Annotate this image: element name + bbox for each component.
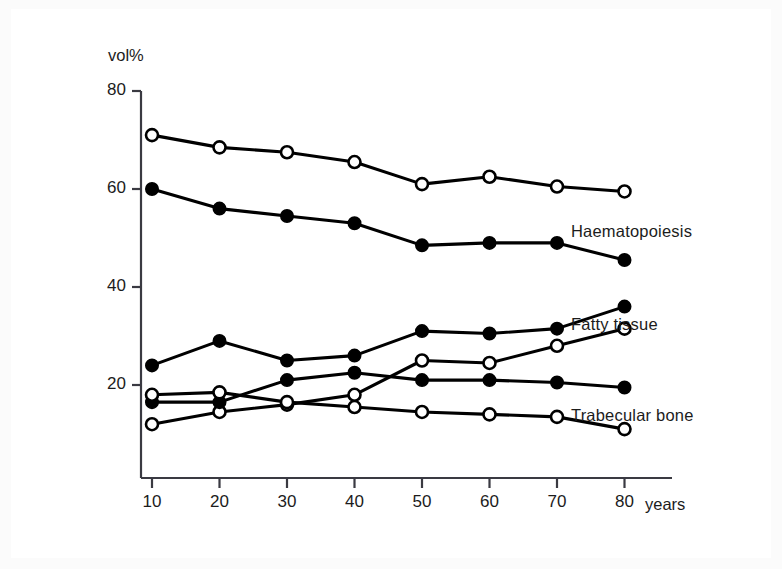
data-point-open	[349, 401, 361, 413]
data-point-open	[416, 406, 428, 418]
x-axis-unit-label: years	[645, 495, 685, 514]
data-point-filled	[348, 349, 360, 361]
chart-series	[146, 129, 631, 435]
data-point-filled	[416, 239, 428, 251]
data-point-filled	[348, 217, 360, 229]
y-tick-label: 60	[86, 178, 126, 198]
data-point-filled	[281, 210, 293, 222]
y-tick-label: 80	[86, 80, 126, 100]
data-point-open	[146, 129, 158, 141]
data-point-open	[349, 389, 361, 401]
data-point-open	[551, 411, 563, 423]
data-point-open	[484, 171, 496, 183]
x-tick-label: 50	[400, 492, 444, 512]
data-point-filled	[146, 183, 158, 195]
x-tick-label: 30	[265, 492, 309, 512]
data-point-filled	[416, 325, 428, 337]
y-axis-unit-label: vol%	[108, 46, 144, 65]
data-point-filled	[348, 367, 360, 379]
series-annotation-label: Haematopoiesis	[571, 222, 692, 241]
x-tick-label: 20	[198, 492, 242, 512]
data-point-filled	[213, 202, 225, 214]
x-tick-label: 70	[535, 492, 579, 512]
y-tick-label: 40	[86, 276, 126, 296]
data-point-open	[214, 386, 226, 398]
data-point-open	[214, 141, 226, 153]
data-point-filled	[483, 327, 495, 339]
x-tick-label: 60	[468, 492, 512, 512]
series-annotation-label: Fatty tissue	[571, 315, 658, 334]
data-point-open	[484, 357, 496, 369]
x-tick-label: 10	[130, 492, 174, 512]
data-point-filled	[416, 374, 428, 386]
data-point-filled	[618, 254, 630, 266]
data-point-filled	[146, 359, 158, 371]
data-point-open	[281, 396, 293, 408]
data-point-open	[619, 185, 631, 197]
data-point-filled	[618, 300, 630, 312]
data-point-open	[146, 418, 158, 430]
data-point-filled	[618, 381, 630, 393]
data-point-open	[551, 181, 563, 193]
data-point-filled	[213, 335, 225, 347]
data-point-filled	[483, 237, 495, 249]
data-point-filled	[483, 374, 495, 386]
series-line	[152, 189, 625, 260]
data-point-open	[551, 340, 563, 352]
data-point-open	[146, 389, 158, 401]
data-point-open	[416, 355, 428, 367]
data-point-filled	[551, 322, 563, 334]
data-point-filled	[551, 376, 563, 388]
data-point-filled	[551, 237, 563, 249]
data-point-open	[281, 146, 293, 158]
data-point-filled	[281, 374, 293, 386]
data-point-open	[484, 408, 496, 420]
y-tick-label: 20	[86, 374, 126, 394]
series-annotation-label: Trabecular bone	[571, 406, 694, 425]
chart-page: vol% years 20406080 1020304050607080 Hae…	[0, 0, 782, 569]
data-point-open	[416, 178, 428, 190]
x-tick-label: 80	[603, 492, 647, 512]
data-point-filled	[281, 354, 293, 366]
x-tick-label: 40	[333, 492, 377, 512]
data-point-open	[349, 156, 361, 168]
